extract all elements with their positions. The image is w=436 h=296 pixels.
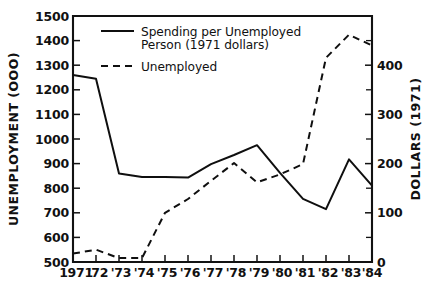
x-tick-label: '77	[203, 265, 223, 280]
left-tick-label: 1000	[35, 132, 69, 147]
legend-label-spending-line2: Person (1971 dollars)	[141, 38, 269, 52]
left-axis-title: UNEMPLOYMENT (OOO)	[6, 52, 21, 226]
right-tick-label: 200	[377, 156, 403, 171]
left-tick-label: 1300	[35, 58, 69, 73]
x-tick-label: '75	[157, 265, 177, 280]
right-axis-title: DOLLARS (1971)	[408, 78, 423, 201]
plot-frame	[73, 16, 372, 262]
x-tick-label: '79	[249, 265, 269, 280]
x-tick-label: '80	[272, 265, 293, 280]
legend-label-unemployed: Unemployed	[141, 60, 217, 74]
right-axis-tick-labels: 0 100 200 300 400	[377, 58, 403, 270]
series-spending-per-unemployed-line	[73, 75, 372, 209]
right-tick-label: 300	[377, 107, 403, 122]
line-chart-canvas: 500 600 700 800 900 1000 1100 1200 1300 …	[0, 0, 436, 296]
left-tick-label: 600	[44, 230, 70, 245]
chart-legend: Spending per Unemployed Person (1971 dol…	[101, 25, 301, 74]
legend-label-spending-line1: Spending per Unemployed	[141, 25, 301, 39]
x-tick-label: '72	[88, 265, 108, 280]
left-tick-label: 1100	[35, 107, 69, 122]
left-axis-tick-labels: 500 600 700 800 900 1000 1100 1200 1300 …	[35, 9, 69, 270]
x-tick-label: '82	[318, 265, 338, 280]
x-axis-tick-labels: 1971 '72 '73 '74 '75 '76 '77 '78 '79 '80…	[59, 265, 383, 280]
x-tick-label: '81	[295, 265, 315, 280]
left-tick-label: 1500	[35, 9, 69, 24]
left-tick-label: 1400	[35, 33, 69, 48]
x-tick-label: '76	[180, 265, 201, 280]
left-tick-label: 900	[44, 156, 70, 171]
right-tick-label: 100	[377, 205, 403, 220]
x-tick-label: '73	[111, 265, 131, 280]
x-tick-label: '84	[362, 265, 383, 280]
left-tick-label: 1200	[35, 82, 69, 97]
chart-figure: 500 600 700 800 900 1000 1100 1200 1300 …	[0, 0, 436, 296]
left-tick-label: 800	[44, 181, 70, 196]
x-tick-label: '78	[226, 265, 246, 280]
x-tick-label: '74	[134, 265, 155, 280]
series-unemployed-line	[73, 35, 372, 258]
left-tick-label: 700	[44, 205, 70, 220]
right-tick-label: 400	[377, 58, 403, 73]
x-tick-label: '83	[341, 265, 361, 280]
